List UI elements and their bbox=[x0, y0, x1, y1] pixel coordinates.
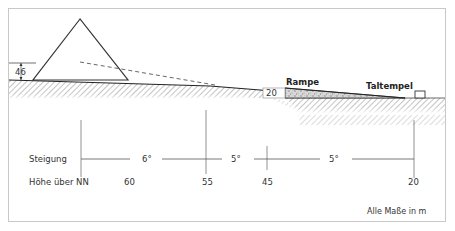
elevation-value: 20 bbox=[408, 177, 419, 187]
ramp-label: Rampe bbox=[286, 77, 319, 87]
valley-temple bbox=[415, 91, 425, 98]
slope-row-label: Steigung bbox=[29, 154, 67, 164]
slope-value: 6° bbox=[142, 154, 152, 164]
elevation-value: 55 bbox=[202, 177, 213, 187]
units-note: Alle Maße in m bbox=[367, 207, 427, 216]
elevation-value: 60 bbox=[124, 177, 135, 187]
slope-value: 5° bbox=[231, 154, 241, 164]
pyramid-causeway-diagram: 46 20 Rampe Taltempel Steigung Höhe über… bbox=[0, 0, 455, 231]
pyramid bbox=[33, 19, 128, 80]
pyramid-height-label: 46 bbox=[15, 67, 26, 77]
elevation-row-label: Höhe über NN bbox=[29, 177, 89, 187]
slope-value: 5° bbox=[329, 154, 339, 164]
ramp-height-label: 20 bbox=[266, 88, 277, 98]
elevation-value: 45 bbox=[262, 177, 273, 187]
valley-temple-label: Taltempel bbox=[366, 81, 413, 91]
